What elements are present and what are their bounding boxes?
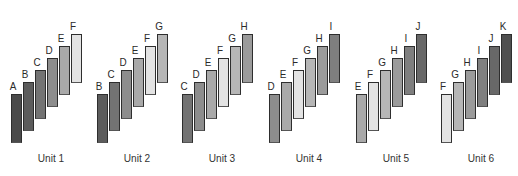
bar-letter-label: F	[68, 20, 79, 32]
bar-letter-label: I	[401, 32, 412, 44]
bar-g	[453, 82, 464, 131]
bar-letter-label: G	[227, 32, 238, 44]
bar-letter-label: F	[290, 56, 301, 68]
bar-letter-label: H	[389, 44, 400, 56]
bar-i	[329, 34, 340, 83]
bar-letter-label: B	[94, 80, 105, 92]
bar-g	[230, 46, 241, 95]
bar-e	[133, 58, 144, 107]
unit-group: CDEFGHUnit 3	[179, 0, 265, 176]
bar-a	[11, 94, 22, 143]
bar-f	[71, 34, 82, 83]
bar-b	[97, 94, 108, 143]
bar-letter-label: J	[486, 32, 497, 44]
bar-letter-label: G	[450, 68, 461, 80]
bar-b	[23, 82, 34, 131]
bar-letter-label: K	[498, 20, 509, 32]
bar-h	[465, 70, 476, 119]
bar-f	[145, 46, 156, 95]
bar-h	[317, 46, 328, 95]
bar-d	[194, 82, 205, 131]
unit-label: Unit 2	[97, 152, 176, 165]
bar-k	[501, 34, 512, 83]
bar-f	[218, 58, 229, 107]
bar-letter-label: H	[239, 20, 250, 32]
unit-label: Unit 6	[441, 152, 518, 165]
bar-c	[109, 82, 120, 131]
bar-letter-label: I	[474, 44, 485, 56]
unit-label: Unit 3	[182, 152, 261, 165]
bar-e	[59, 46, 70, 95]
bar-g	[157, 34, 168, 83]
bar-letter-label: G	[302, 44, 313, 56]
bar-letter-label: C	[32, 56, 43, 68]
unit-label: Unit 4	[269, 152, 348, 165]
bar-c	[35, 70, 46, 119]
bar-letter-label: D	[266, 80, 277, 92]
bar-letter-label: G	[154, 20, 165, 32]
bar-j	[489, 46, 500, 95]
bar-i	[477, 58, 488, 107]
bar-i	[404, 46, 415, 95]
bar-letter-label: F	[142, 32, 153, 44]
bar-letter-label: J	[413, 20, 424, 32]
bar-letter-label: E	[203, 56, 214, 68]
unit-group: DEFGHIUnit 4	[266, 0, 352, 176]
bar-letter-label: E	[56, 32, 67, 44]
bar-g	[305, 58, 316, 107]
bar-letter-label: D	[44, 44, 55, 56]
bar-letter-label: G	[377, 56, 388, 68]
bar-f	[368, 82, 379, 131]
unit-group: EFGHIJUnit 5	[353, 0, 439, 176]
bar-f	[293, 70, 304, 119]
bar-letter-label: H	[314, 32, 325, 44]
bar-letter-label: F	[215, 44, 226, 56]
bar-d	[47, 58, 58, 107]
bar-e	[356, 94, 367, 143]
bar-c	[182, 94, 193, 143]
bar-letter-label: C	[179, 80, 190, 92]
unit-group: FGHIJKUnit 6	[438, 0, 518, 176]
bar-letter-label: F	[365, 68, 376, 80]
bar-d	[269, 94, 280, 143]
bar-e	[206, 70, 217, 119]
bar-letter-label: D	[118, 56, 129, 68]
bar-letter-label: F	[438, 80, 449, 92]
bar-letter-label: C	[106, 68, 117, 80]
bar-h	[392, 58, 403, 107]
unit-label: Unit 5	[356, 152, 435, 165]
bar-g	[380, 70, 391, 119]
bar-letter-label: I	[326, 20, 337, 32]
bar-letter-label: E	[130, 44, 141, 56]
unit-group: ABCDEFUnit 1	[8, 0, 94, 176]
bar-letter-label: A	[8, 80, 19, 92]
bar-letter-label: H	[462, 56, 473, 68]
bar-d	[121, 70, 132, 119]
bar-f	[441, 94, 452, 143]
bar-letter-label: D	[191, 68, 202, 80]
bar-letter-label: B	[20, 68, 31, 80]
bar-letter-label: E	[278, 68, 289, 80]
unit-label: Unit 1	[11, 152, 90, 165]
bar-j	[416, 34, 427, 83]
bar-h	[242, 34, 253, 83]
unit-group: BCDEFGUnit 2	[94, 0, 180, 176]
bar-letter-label: E	[353, 80, 364, 92]
bar-e	[281, 82, 292, 131]
